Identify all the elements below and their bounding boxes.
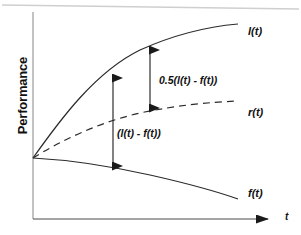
curve-label-l: l(t) [248,26,262,37]
curve-f [33,158,238,199]
scan-top-edge [2,5,299,9]
annotation-full-gap: (l(t) - f(t)) [117,128,161,139]
y-axis-label: Performance [15,46,30,146]
annotation-half-gap: 0.5(l(t) - f(t)) [159,75,217,86]
performance-curves-diagram: Performance t l(t) r(t) f(t) 0.5(l(t) - … [0,0,301,235]
curve-label-f: f(t) [248,188,263,199]
x-axis-label: t [285,212,288,222]
curve-label-r: r(t) [248,107,263,118]
